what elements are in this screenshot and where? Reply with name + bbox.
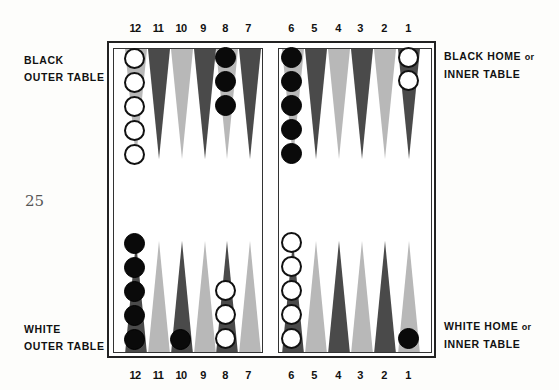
checker-black[interactable]: [124, 329, 145, 350]
checker-white[interactable]: [281, 304, 302, 325]
label-line: WHITE HOME or: [444, 318, 531, 336]
checker-black[interactable]: [281, 71, 302, 92]
point-top-5: [305, 49, 327, 159]
point-top-7: [239, 49, 261, 159]
top-point-number-1: 1: [397, 22, 419, 34]
top-point-number-3: 3: [349, 22, 371, 34]
right-points-svg: [279, 49, 432, 353]
point-bottom-5: [305, 241, 327, 353]
bottom-point-number-5: 5: [303, 369, 325, 381]
label-or: or: [522, 322, 532, 332]
top-point-number-7: 7: [237, 22, 259, 34]
label-white-outer-table: WHITE OUTER TABLE: [24, 321, 105, 355]
checker-white[interactable]: [215, 328, 236, 349]
checker-black[interactable]: [124, 281, 145, 302]
checker-black[interactable]: [215, 71, 236, 92]
top-point-number-12: 12: [124, 22, 146, 34]
point-bottom-2: [374, 241, 396, 353]
point-top-9: [194, 49, 216, 159]
checker-white[interactable]: [215, 280, 236, 301]
checker-black[interactable]: [281, 95, 302, 116]
label-line: BLACK HOME or: [444, 48, 534, 66]
checker-black[interactable]: [124, 233, 145, 254]
top-point-number-2: 2: [373, 22, 395, 34]
checker-white[interactable]: [281, 280, 302, 301]
label-white-home-table: WHITE HOME or INNER TABLE: [444, 318, 531, 353]
label-line: OUTER TABLE: [24, 69, 105, 86]
label-black-outer-table: BLACK OUTER TABLE: [24, 52, 105, 86]
label-line: INNER TABLE: [444, 336, 531, 353]
checker-black[interactable]: [124, 257, 145, 278]
checker-black[interactable]: [170, 329, 191, 350]
label-line: INNER TABLE: [444, 66, 534, 83]
label-black-home-table: BLACK HOME or INNER TABLE: [444, 48, 534, 83]
point-top-10: [171, 49, 193, 159]
checker-white[interactable]: [124, 96, 145, 117]
bottom-point-number-2: 2: [373, 369, 395, 381]
label-line: WHITE: [24, 321, 105, 338]
checker-white[interactable]: [124, 48, 145, 69]
point-bottom-9: [194, 241, 216, 353]
point-bottom-11: [148, 241, 170, 353]
top-point-number-4: 4: [327, 22, 349, 34]
checker-black[interactable]: [281, 119, 302, 140]
point-bottom-3: [351, 241, 373, 353]
bottom-point-number-12: 12: [124, 369, 146, 381]
checker-white[interactable]: [281, 328, 302, 349]
bottom-point-number-9: 9: [192, 369, 214, 381]
top-point-number-6: 6: [280, 22, 302, 34]
point-bottom-7: [239, 241, 261, 353]
top-point-number-8: 8: [214, 22, 236, 34]
checker-white[interactable]: [281, 256, 302, 277]
point-top-4: [328, 49, 350, 159]
label-line: OUTER TABLE: [24, 338, 105, 355]
checker-white[interactable]: [398, 70, 419, 91]
checker-white[interactable]: [124, 144, 145, 165]
page-number: 25: [25, 192, 44, 210]
checker-black[interactable]: [398, 328, 419, 349]
board-right-panel: [278, 48, 432, 353]
checker-black[interactable]: [215, 95, 236, 116]
bottom-point-number-8: 8: [214, 369, 236, 381]
checker-white[interactable]: [124, 72, 145, 93]
checker-black[interactable]: [124, 305, 145, 326]
top-point-number-5: 5: [303, 22, 325, 34]
top-point-number-10: 10: [170, 22, 192, 34]
checker-black[interactable]: [281, 143, 302, 164]
bottom-point-number-1: 1: [397, 369, 419, 381]
top-point-number-9: 9: [192, 22, 214, 34]
checker-white[interactable]: [124, 120, 145, 141]
label-line: BLACK: [24, 52, 105, 69]
checker-white[interactable]: [398, 47, 419, 68]
point-top-3: [351, 49, 373, 159]
point-top-11: [148, 49, 170, 159]
bottom-point-number-11: 11: [147, 369, 169, 381]
checker-black[interactable]: [281, 47, 302, 68]
bottom-point-number-6: 6: [280, 369, 302, 381]
bottom-point-number-3: 3: [349, 369, 371, 381]
bottom-point-number-10: 10: [170, 369, 192, 381]
label-text: WHITE HOME: [444, 320, 518, 332]
checker-white[interactable]: [215, 304, 236, 325]
label-or: or: [525, 52, 535, 62]
point-top-2: [374, 49, 396, 159]
point-bottom-4: [328, 241, 350, 353]
checker-white[interactable]: [281, 232, 302, 253]
bottom-point-number-7: 7: [237, 369, 259, 381]
checker-black[interactable]: [215, 47, 236, 68]
top-point-number-11: 11: [147, 22, 169, 34]
label-text: BLACK HOME: [444, 50, 521, 62]
bottom-point-number-4: 4: [327, 369, 349, 381]
